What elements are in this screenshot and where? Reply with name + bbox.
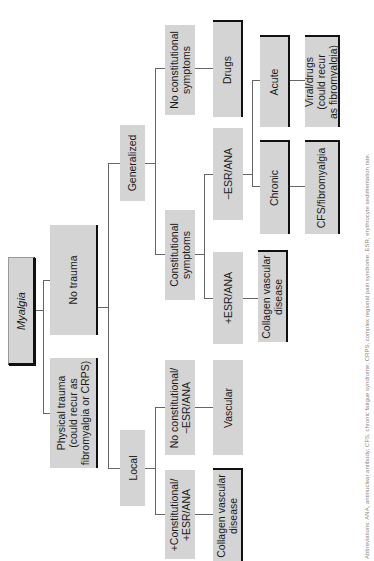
connector xyxy=(43,280,44,413)
connector xyxy=(252,80,253,186)
node-label: Chronic xyxy=(268,170,280,206)
node-local-collagen-vascular: Collagen vascular disease xyxy=(213,468,243,561)
node-minus-esr-ana: −ESR/ANA xyxy=(213,128,243,220)
connector xyxy=(155,68,165,69)
connector xyxy=(204,174,205,298)
node-label: No trauma xyxy=(67,255,79,304)
node-myalgia: Myalgia xyxy=(8,257,35,365)
node-acute: Acute xyxy=(260,35,290,127)
connector xyxy=(43,413,50,414)
node-label: Vascular xyxy=(222,387,234,427)
node-generalized: Generalized xyxy=(120,125,145,201)
node-drugs: Drugs xyxy=(213,20,243,117)
connector xyxy=(155,514,165,515)
node-label: CFS/fibromyalgia xyxy=(316,148,328,229)
node-label: Generalized xyxy=(127,135,139,192)
node-label: Physical trauma (could recur as fibromya… xyxy=(55,361,91,465)
node-local: Local xyxy=(120,430,145,506)
node-plus-esr-ana: +ESR/ANA xyxy=(213,252,243,344)
connector xyxy=(252,80,260,81)
node-label: No constitutional symptoms xyxy=(168,31,192,109)
node-label: Myalgia xyxy=(15,292,27,330)
node-local-no-constitutional: No constitutional/ −ESR/ANA xyxy=(165,360,195,455)
connector xyxy=(204,174,213,175)
node-label: Collagen vascular disease xyxy=(260,255,284,338)
connector xyxy=(108,163,109,468)
node-label: Drugs xyxy=(221,55,233,83)
connector xyxy=(108,468,120,469)
node-viral-drugs: Viral/drugs (could recur as fibromyalgia… xyxy=(305,35,340,127)
connector xyxy=(155,68,156,254)
node-label: +ESR/ANA xyxy=(222,272,234,324)
node-label: −ESR/ANA xyxy=(222,148,234,200)
connector xyxy=(195,407,213,408)
node-label: Viral/drugs (could recur as fibromyalgia… xyxy=(304,45,340,119)
connector xyxy=(195,68,213,69)
connector xyxy=(204,298,213,299)
node-label: No constitutional/ −ESR/ANA xyxy=(168,367,192,448)
node-local-plus-constitutional: +Constitutional/ +ESR/ANA xyxy=(165,470,195,559)
node-label: Constitutional symptoms xyxy=(168,223,192,287)
connector xyxy=(145,163,155,164)
connector xyxy=(145,468,155,469)
connector xyxy=(155,407,165,408)
node-physical-trauma: Physical trauma (could recur as fibromya… xyxy=(50,358,98,468)
node-label: Collagen vascular disease xyxy=(215,474,239,557)
connector xyxy=(195,254,204,255)
connector xyxy=(290,186,305,187)
node-cfs-fibromyalgia: CFS/fibromyalgia xyxy=(305,140,340,234)
node-no-trauma: No trauma xyxy=(50,225,98,335)
node-chronic: Chronic xyxy=(260,140,290,234)
connector xyxy=(155,407,156,514)
connector xyxy=(108,163,120,164)
connector xyxy=(43,280,50,281)
node-gen-collagen-vascular: Collagen vascular disease xyxy=(258,250,288,342)
node-label: +Constitutional/ +ESR/ANA xyxy=(168,478,192,551)
connector xyxy=(243,174,252,175)
node-constitutional-symptoms: Constitutional symptoms xyxy=(165,210,195,300)
connector xyxy=(252,186,260,187)
connector xyxy=(155,254,165,255)
connector xyxy=(243,298,258,299)
connector xyxy=(195,514,213,515)
node-label: Acute xyxy=(268,69,280,96)
node-no-constitutional-symptoms: No constitutional symptoms xyxy=(165,25,195,115)
caption-abbreviations: Abbreviations: ANA, antinuclear antibody… xyxy=(361,0,374,559)
node-vascular: Vascular xyxy=(213,360,243,455)
node-label: Local xyxy=(127,455,139,480)
